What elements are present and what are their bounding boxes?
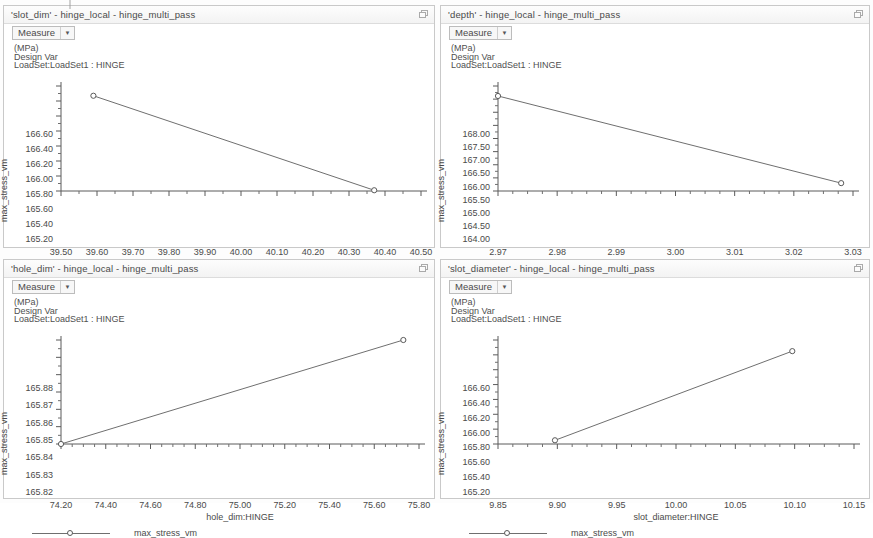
plot-area-4: 165.20165.40165.60165.80166.00166.20166.…	[441, 308, 869, 508]
panel-titlebar[interactable]: 'hole_dim' - hinge_local - hinge_multi_p…	[4, 260, 434, 278]
x-axis-tick-label: 9.85	[476, 500, 520, 510]
plot-canvas	[4, 308, 434, 478]
measure-dropdown[interactable]: Measure ▼	[449, 280, 512, 294]
y-axis-tick-label: 165.20	[5, 234, 53, 244]
x-axis-tick-label: 75.20	[263, 500, 307, 510]
x-axis-tick-label: 74.20	[39, 500, 83, 510]
x-axis-tick-label: 75.00	[218, 500, 262, 510]
measure-dropdown-label: Measure	[13, 27, 60, 39]
measure-dropdown-label: Measure	[13, 281, 60, 293]
chevron-down-icon[interactable]: ▼	[498, 27, 511, 39]
x-axis-tick-label: 3.01	[713, 247, 757, 257]
plot-area-1: 165.20165.40165.60165.80166.00166.20166.…	[4, 54, 434, 254]
x-axis-label: slot_diameter:HINGE	[606, 512, 746, 522]
panel-titlebar[interactable]: 'depth' - hinge_local - hinge_multi_pass	[441, 6, 869, 24]
panel-toolbar: Measure ▼	[4, 278, 434, 295]
x-axis-tick-label: 74.80	[173, 500, 217, 510]
x-axis-tick-label: 74.40	[84, 500, 128, 510]
panel-toolbar: Measure ▼	[441, 24, 869, 41]
plot-panel-slot-diameter[interactable]: 'slot_diameter' - hinge_local - hinge_mu…	[440, 259, 870, 499]
chevron-down-icon[interactable]: ▼	[61, 281, 74, 293]
x-axis-tick-label: 75.60	[352, 500, 396, 510]
x-axis-tick-label: 75.40	[308, 500, 352, 510]
legend-line-swatch	[32, 529, 110, 538]
y-axis-label: max_stress_vm	[436, 158, 446, 221]
plot-canvas	[441, 308, 871, 478]
y-axis-label: max_stress_vm	[436, 412, 446, 475]
y-axis-tick-label: 164.00	[442, 234, 490, 244]
plot-canvas	[441, 54, 871, 224]
scan-artifact	[69, 0, 71, 9]
plot-area-3: 165.82165.83165.84165.85165.86165.87165.…	[4, 308, 434, 508]
x-axis-label: hole_dim:HINGE	[170, 512, 310, 522]
x-axis-tick-label: 10.10	[773, 500, 817, 510]
legend-marker-icon	[67, 530, 73, 536]
x-axis-tick-label: 3.02	[772, 247, 816, 257]
y-axis-tick-label: 165.20	[442, 487, 490, 497]
plot-canvas	[4, 54, 434, 224]
x-axis-tick-label: 9.95	[595, 500, 639, 510]
x-axis-tick-label: 3.03	[831, 247, 873, 257]
x-axis-tick-label: 10.05	[713, 500, 757, 510]
plot-legend: max_stress_vm	[32, 528, 197, 538]
measure-dropdown-label: Measure	[450, 281, 497, 293]
x-axis-tick-label: 2.99	[594, 247, 638, 257]
x-axis-tick-label: 10.00	[654, 500, 698, 510]
panel-title: 'hole_dim' - hinge_local - hinge_multi_p…	[11, 263, 199, 274]
panel-toolbar: Measure ▼	[441, 278, 869, 295]
measure-dropdown[interactable]: Measure ▼	[12, 26, 75, 40]
panel-toolbar: Measure ▼	[4, 24, 434, 41]
measure-dropdown[interactable]: Measure ▼	[12, 280, 75, 294]
panel-titlebar[interactable]: 'slot_diameter' - hinge_local - hinge_mu…	[441, 260, 869, 278]
legend-line-swatch	[469, 529, 547, 538]
x-axis-tick-label: 75.80	[397, 500, 441, 510]
panel-title: 'slot_diameter' - hinge_local - hinge_mu…	[448, 263, 655, 274]
x-axis-tick-label: 3.00	[654, 247, 698, 257]
restore-window-icon[interactable]	[854, 264, 863, 272]
restore-window-icon[interactable]	[419, 10, 428, 18]
plot-area-2: 164.00164.50165.00165.50166.00166.50167.…	[441, 54, 869, 254]
chevron-down-icon[interactable]: ▼	[498, 281, 511, 293]
y-axis-label: max_stress_vm	[0, 412, 9, 475]
legend-marker-icon	[504, 530, 510, 536]
measure-dropdown-label: Measure	[450, 27, 497, 39]
x-axis-tick-label: 2.97	[476, 247, 520, 257]
plot-panel-slot-dim[interactable]: 'slot_dim' - hinge_local - hinge_multi_p…	[3, 5, 435, 248]
x-axis-tick-label: 10.15	[832, 500, 873, 510]
restore-window-icon[interactable]	[419, 264, 428, 272]
plot-panel-hole-dim[interactable]: 'hole_dim' - hinge_local - hinge_multi_p…	[3, 259, 435, 499]
chevron-down-icon[interactable]: ▼	[61, 27, 74, 39]
panel-title: 'slot_dim' - hinge_local - hinge_multi_p…	[11, 9, 195, 20]
plot-panel-depth[interactable]: 'depth' - hinge_local - hinge_multi_pass…	[440, 5, 870, 248]
panel-title: 'depth' - hinge_local - hinge_multi_pass	[448, 9, 620, 20]
x-axis-tick-label: 40.50	[399, 247, 443, 257]
x-axis-tick-label: 74.60	[129, 500, 173, 510]
y-axis-tick-label: 165.82	[5, 487, 53, 497]
plot-legend: max_stress_vm	[469, 528, 634, 538]
y-axis-label: max_stress_vm	[0, 158, 9, 221]
restore-window-icon[interactable]	[854, 10, 863, 18]
measure-dropdown[interactable]: Measure ▼	[449, 26, 512, 40]
x-axis-tick-label: 2.98	[535, 247, 579, 257]
x-axis-tick-label: 9.90	[535, 500, 579, 510]
legend-label: max_stress_vm	[134, 528, 197, 538]
legend-label: max_stress_vm	[571, 528, 634, 538]
